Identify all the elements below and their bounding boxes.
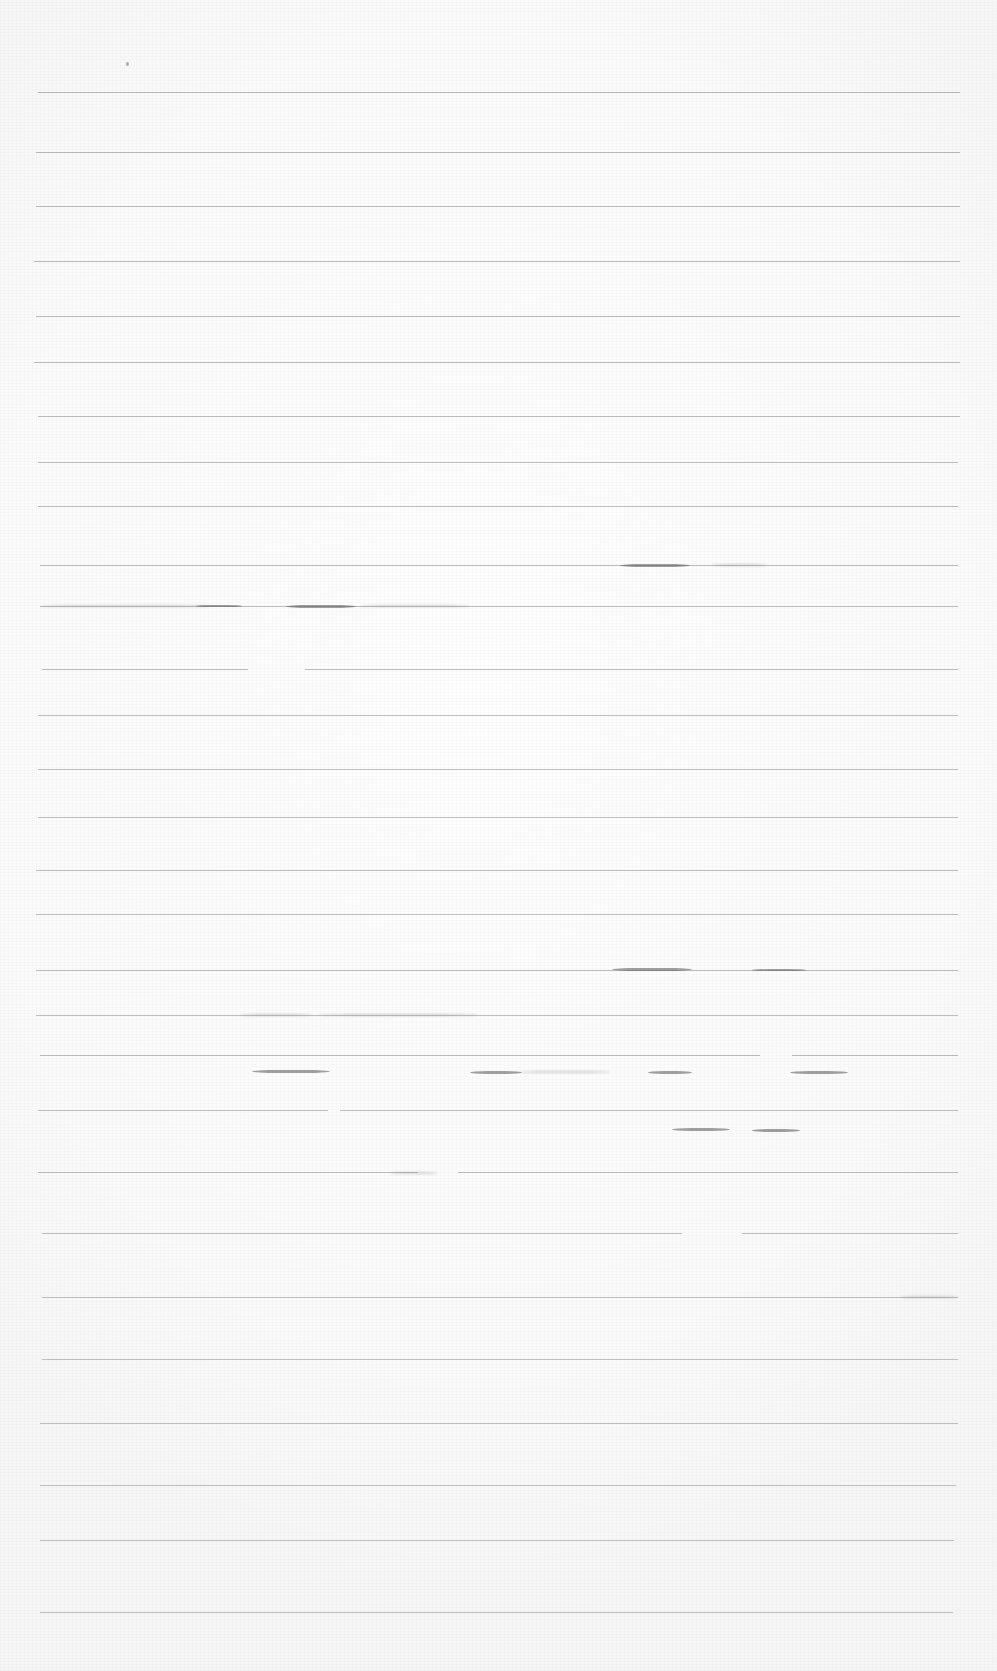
faded-ink-mark <box>612 968 692 971</box>
rule-line <box>38 506 958 507</box>
faded-ink-mark <box>40 605 210 607</box>
rule-line <box>36 970 958 971</box>
rule-line <box>792 1055 958 1056</box>
rule-line <box>458 1172 958 1173</box>
rule-line <box>36 914 958 915</box>
ruled-lines-layer <box>0 0 997 1671</box>
ink-speck <box>126 62 129 66</box>
scanned-page <box>0 0 997 1671</box>
faded-ink-mark <box>752 1129 800 1132</box>
rule-line <box>38 416 960 417</box>
faded-ink-mark <box>196 605 242 607</box>
faded-ink-mark <box>470 1071 522 1074</box>
rule-line <box>38 715 958 716</box>
rule-line <box>36 316 960 317</box>
rule-line <box>40 1485 956 1486</box>
faded-ink-mark <box>286 605 356 608</box>
rule-line <box>40 1612 953 1613</box>
rule-line <box>38 92 960 93</box>
faded-ink-mark <box>240 1014 312 1016</box>
rule-line <box>38 1110 328 1111</box>
rule-line <box>36 152 960 153</box>
faded-ink-mark <box>712 564 767 566</box>
faded-ink-mark <box>390 1172 438 1174</box>
rule-line <box>36 870 958 871</box>
rule-line <box>42 1359 958 1360</box>
rule-line <box>742 1233 958 1234</box>
rule-line <box>42 1233 682 1234</box>
rule-line <box>42 1297 958 1298</box>
faded-ink-mark <box>318 1014 478 1016</box>
faded-ink-mark <box>752 969 806 971</box>
rule-line <box>38 1172 418 1173</box>
rule-line <box>40 1055 760 1056</box>
rule-line <box>34 261 960 262</box>
faded-ink-mark <box>520 1071 610 1073</box>
faded-ink-mark <box>790 1071 848 1074</box>
rule-line <box>305 669 958 670</box>
faded-ink-mark <box>620 564 690 567</box>
faded-ink-mark <box>900 1296 958 1298</box>
faded-ink-mark <box>252 1070 330 1073</box>
rule-line <box>40 1423 958 1424</box>
faded-ink-mark <box>648 1071 692 1074</box>
faded-ink-mark <box>672 1128 730 1131</box>
rule-line <box>40 565 958 566</box>
rule-line <box>40 1540 954 1541</box>
rule-line <box>42 669 248 670</box>
rule-line <box>38 817 958 818</box>
rule-line <box>34 362 960 363</box>
rule-line <box>36 1015 958 1016</box>
rule-line <box>38 462 958 463</box>
rule-line <box>340 1110 958 1111</box>
rule-line <box>38 769 958 770</box>
faded-ink-mark <box>360 605 470 607</box>
rule-line <box>36 206 960 207</box>
